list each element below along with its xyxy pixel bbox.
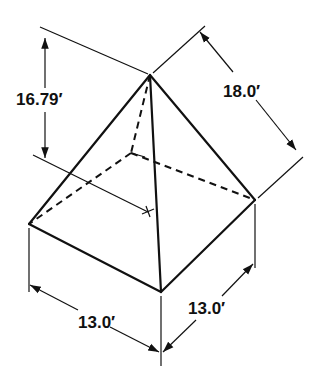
slant-dimension: 18.0′: [153, 26, 303, 198]
base-left-dimension: 13.0′: [30, 285, 159, 352]
base-extension-lines: [29, 204, 255, 366]
base-right-label: 13.0′: [188, 299, 225, 318]
pyramid-diagram: 16.79′ 18.0′ 13.0′ 13.0′: [0, 0, 318, 383]
visible-edges: [29, 75, 255, 292]
hidden-edges: [29, 75, 255, 224]
slant-label: 18.0′: [223, 82, 260, 101]
center-mark-icon: [142, 206, 154, 217]
height-dimension: 16.79′: [16, 27, 148, 212]
base-left-label: 13.0′: [78, 313, 115, 332]
height-label: 16.79′: [16, 90, 63, 109]
